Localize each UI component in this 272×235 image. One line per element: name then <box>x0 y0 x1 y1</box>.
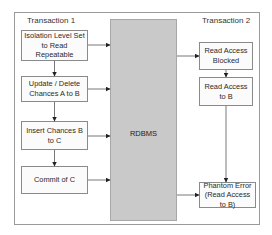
rdbms-label: RDBMS <box>111 129 176 138</box>
t2-step-phantom-error: Phantom Error (Read Access to B) <box>199 182 256 208</box>
t2-step-read-access-b: Read Access to B <box>199 77 253 106</box>
t1-step-commit: Commit of C <box>21 166 88 194</box>
rdbms-block: RDBMS <box>110 19 177 221</box>
t1-step-update-delete: Update / Delete Chances A to B <box>21 76 88 102</box>
t1-step-insert: Insert Chances B to C <box>21 121 88 150</box>
t1-step-isolation-level: Isolation Level Set to Read Repeatable <box>21 30 88 61</box>
transaction-2-title: Transaction 2 <box>202 16 250 25</box>
t2-step-read-blocked: Read Access Blocked <box>199 42 253 70</box>
transaction-1-title: Transaction 1 <box>27 16 75 25</box>
